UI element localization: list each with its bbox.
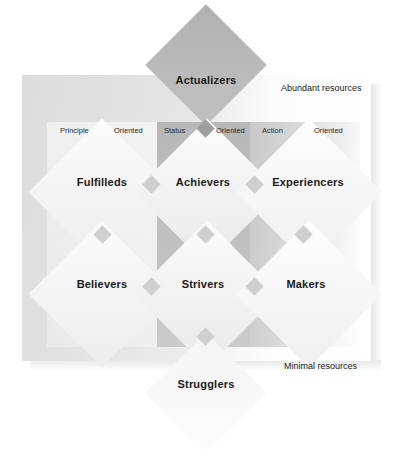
label-actualizers: Actualizers [166, 74, 246, 86]
label-achievers: Achievers [163, 176, 243, 188]
label-principle-oriented: Oriented [114, 126, 143, 135]
label-minimal-resources: Minimal resources [284, 361, 357, 371]
label-principle: Principle [60, 126, 89, 135]
label-status-oriented: Oriented [216, 126, 245, 135]
label-action-oriented: Oriented [314, 126, 343, 135]
label-experiencers: Experiencers [263, 176, 353, 188]
label-strugglers: Strugglers [166, 378, 246, 390]
label-makers: Makers [266, 278, 346, 290]
label-action: Action [262, 126, 283, 135]
label-abundant-resources: Abundant resources [281, 83, 362, 93]
panel-bevel-right [370, 84, 381, 369]
label-fulfilleds: Fulfilleds [62, 176, 142, 188]
label-status: Status [164, 126, 185, 135]
label-strivers: Strivers [163, 278, 243, 290]
label-believers: Believers [62, 278, 142, 290]
